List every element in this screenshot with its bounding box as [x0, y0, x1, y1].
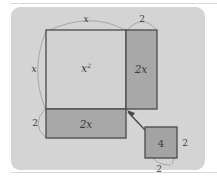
label-dimension-small-right-2: 2 — [182, 138, 188, 148]
label-right-rectangle: 2x — [134, 63, 148, 75]
label-dimension-top-x: x — [83, 14, 88, 24]
label-bottom-rectangle: 2x — [79, 118, 93, 130]
label-small-square: 4 — [158, 138, 164, 149]
label-dimension-left-2: 2 — [32, 118, 38, 128]
label-dimension-small-bottom-2: 2 — [156, 164, 162, 174]
label-dimension-top-2: 2 — [139, 14, 145, 24]
label-big-square-exponent: 2 — [86, 62, 91, 69]
figure-root: x2 2x 2x 4 x 2 x 2 2 2 — [0, 0, 217, 186]
area-model-diagram: x2 2x 2x 4 x 2 x 2 2 2 — [0, 0, 217, 186]
label-dimension-left-x: x — [31, 64, 36, 74]
